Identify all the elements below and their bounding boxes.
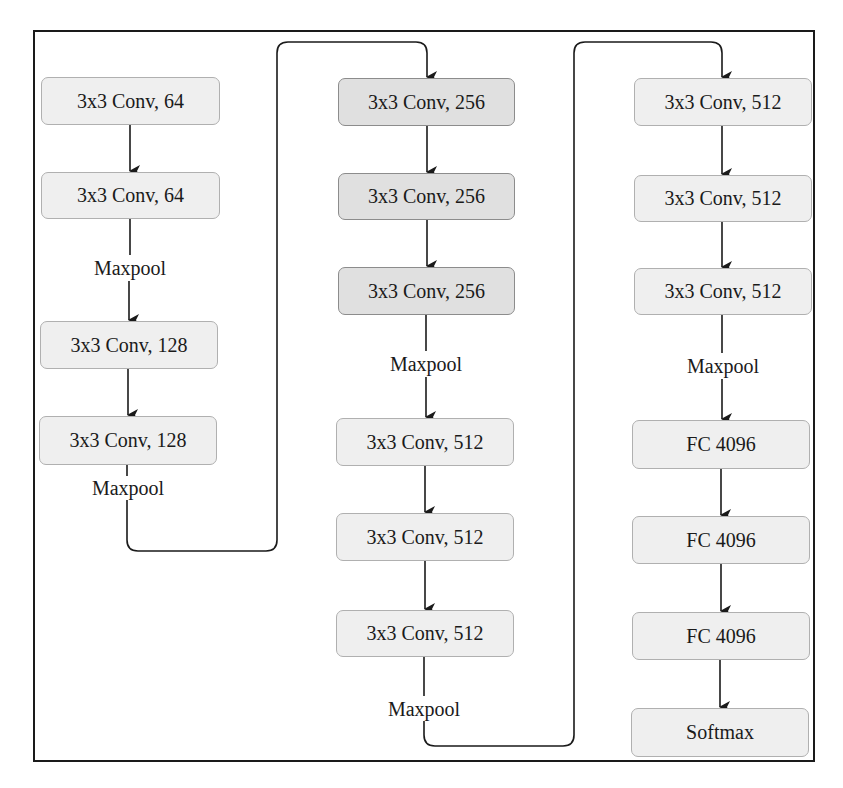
- maxpool-label: Maxpool: [91, 477, 165, 500]
- layer-box-c2-6: 3x3 Conv, 512: [336, 610, 514, 657]
- layer-box-c3-1: 3x3 Conv, 512: [634, 78, 812, 126]
- layer-box-c3-6: FC 4096: [632, 612, 810, 660]
- layer-label: FC 4096: [686, 433, 755, 456]
- maxpool-label: Maxpool: [93, 257, 167, 280]
- layer-label: 3x3 Conv, 256: [368, 185, 485, 208]
- layer-label: 3x3 Conv, 512: [366, 431, 483, 454]
- layer-label: 3x3 Conv, 512: [366, 622, 483, 645]
- layer-label: 3x3 Conv, 256: [368, 91, 485, 114]
- layer-box-c2-5: 3x3 Conv, 512: [336, 513, 514, 561]
- layer-label: 3x3 Conv, 256: [368, 280, 485, 303]
- layer-label: Softmax: [686, 721, 754, 744]
- layer-box-c3-2: 3x3 Conv, 512: [634, 175, 812, 222]
- layer-box-c1-2: 3x3 Conv, 64: [41, 172, 220, 219]
- layer-label: FC 4096: [686, 529, 755, 552]
- layer-box-c1-3: 3x3 Conv, 128: [40, 321, 218, 369]
- maxpool-label: Maxpool: [686, 355, 760, 378]
- layer-box-c3-4: FC 4096: [632, 420, 810, 469]
- layer-box-c2-2: 3x3 Conv, 256: [338, 173, 515, 220]
- layer-label: 3x3 Conv, 64: [77, 90, 184, 113]
- layer-box-c2-3: 3x3 Conv, 256: [338, 267, 515, 315]
- maxpool-label: Maxpool: [389, 353, 463, 376]
- layer-box-c3-7: Softmax: [631, 708, 809, 757]
- layer-label: 3x3 Conv, 128: [69, 429, 186, 452]
- layer-box-c1-1: 3x3 Conv, 64: [41, 77, 220, 125]
- layer-label: 3x3 Conv, 512: [664, 187, 781, 210]
- layer-box-c1-4: 3x3 Conv, 128: [39, 416, 217, 465]
- maxpool-label: Maxpool: [387, 698, 461, 721]
- layer-box-c2-4: 3x3 Conv, 512: [336, 418, 514, 466]
- layer-box-c3-3: 3x3 Conv, 512: [634, 268, 812, 315]
- layer-box-c2-1: 3x3 Conv, 256: [338, 78, 515, 126]
- layer-label: 3x3 Conv, 512: [664, 91, 781, 114]
- layer-label: 3x3 Conv, 512: [664, 280, 781, 303]
- layer-label: 3x3 Conv, 64: [77, 184, 184, 207]
- layer-box-c3-5: FC 4096: [632, 516, 810, 564]
- layer-label: 3x3 Conv, 512: [366, 526, 483, 549]
- layer-label: FC 4096: [686, 625, 755, 648]
- layer-label: 3x3 Conv, 128: [70, 334, 187, 357]
